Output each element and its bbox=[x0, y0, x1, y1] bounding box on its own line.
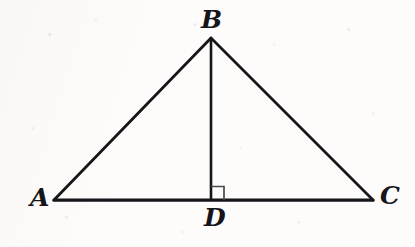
vertex-label-b: B bbox=[201, 7, 222, 32]
vertex-label-a: A bbox=[30, 185, 49, 210]
segment-BC bbox=[211, 38, 373, 200]
segment-AB bbox=[54, 38, 211, 200]
geometry-figure: A B C D bbox=[0, 0, 415, 247]
vertex-label-d: D bbox=[204, 205, 226, 230]
vertex-label-c: C bbox=[380, 183, 400, 208]
right-angle-mark-at-D bbox=[211, 187, 224, 201]
